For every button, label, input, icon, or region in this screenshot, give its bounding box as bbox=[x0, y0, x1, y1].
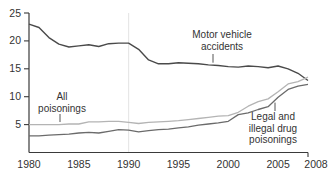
x-axis-tick-label: 1980 bbox=[17, 158, 41, 170]
y-axis-tick-label: 15 bbox=[9, 62, 21, 74]
annotation-label: poisonings bbox=[249, 134, 297, 145]
x-axis-tick-label: 2008 bbox=[304, 158, 328, 170]
chart-canvas: 5101520251980198519901995200020052008Mot… bbox=[0, 0, 333, 182]
annotation-label: Legal and bbox=[251, 111, 295, 122]
x-axis-tick-label: 2000 bbox=[217, 158, 241, 170]
annotation-label: illegal drug bbox=[249, 123, 297, 134]
series-line-1 bbox=[29, 24, 308, 80]
x-axis-tick-label: 1985 bbox=[67, 158, 91, 170]
y-axis-tick-label: 10 bbox=[9, 90, 21, 102]
x-axis-tick-label: 1995 bbox=[167, 158, 191, 170]
y-axis-tick-label: 5 bbox=[15, 118, 21, 130]
annotation-label: All bbox=[56, 91, 67, 102]
x-axis-tick-label: 1990 bbox=[117, 158, 141, 170]
death-rates-line-chart: 5101520251980198519901995200020052008Mot… bbox=[0, 0, 333, 182]
y-axis-tick-label: 25 bbox=[9, 7, 21, 19]
annotation-label: accidents bbox=[201, 41, 243, 52]
y-axis-tick-label: 20 bbox=[9, 34, 21, 46]
annotation-label: poisonings bbox=[38, 103, 86, 114]
x-axis-tick-label: 2005 bbox=[266, 158, 290, 170]
annotation-label: Motor vehicle bbox=[192, 29, 252, 40]
